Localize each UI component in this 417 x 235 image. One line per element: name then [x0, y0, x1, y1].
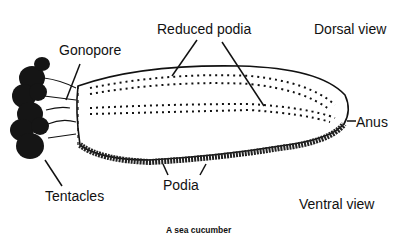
body-outline	[77, 66, 348, 160]
label-anus: Anus	[356, 115, 388, 129]
label-ventral-view: Ventral view	[299, 197, 374, 211]
diagram-caption: A sea cucumber	[166, 226, 231, 235]
label-tentacles: Tentacles	[45, 189, 104, 203]
label-reduced-podia: Reduced podia	[157, 22, 251, 36]
tentacles-shape	[10, 57, 50, 159]
label-gonopore: Gonopore	[59, 43, 121, 57]
label-dorsal-view: Dorsal view	[314, 22, 386, 36]
sea-cucumber-diagram: Gonopore Reduced podia Dorsal view Anus …	[0, 0, 417, 235]
label-podia: Podia	[163, 178, 199, 192]
